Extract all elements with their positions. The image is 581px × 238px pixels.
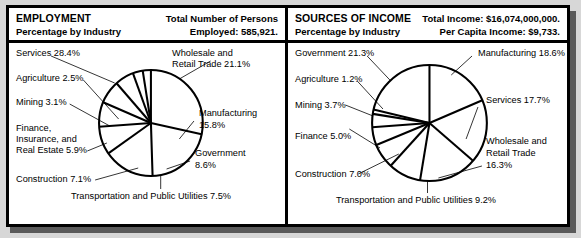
income-per-capita-value: Per Capita Income: $9,733. xyxy=(440,25,560,38)
employment-total-persons-label: Total Number of Persons xyxy=(166,12,278,25)
employment-slice-edge-3 xyxy=(108,123,151,153)
income-title: SOURCES OF INCOME xyxy=(295,12,411,25)
employment-label-agriculture: Agriculture 2.5% xyxy=(16,73,83,84)
income-label-finance: Finance 5.0% xyxy=(295,131,351,142)
income-label-wholesale-line3: 16.3% xyxy=(486,160,512,171)
income-leader-government xyxy=(367,56,390,80)
income-label-wholesale-line1: Wholesale and xyxy=(486,136,547,147)
income-label-mining: Mining 3.7% xyxy=(295,100,346,111)
income-subtitle: Percentage by Industry xyxy=(295,25,411,38)
employment-label-transportation: Transportation and Public Utilities 7.5% xyxy=(71,191,231,202)
employment-label-manufacturing-line2: 15.8% xyxy=(199,120,225,131)
employment-slice-edge-1 xyxy=(151,123,202,134)
employment-total-persons-value: Employed: 585,921. xyxy=(190,25,278,38)
income-header: SOURCES OF INCOME Percentage by Industry… xyxy=(288,8,567,43)
panel-employment: EMPLOYMENT Percentage by Industry Total … xyxy=(9,8,288,224)
employment-label-government-line1: Government xyxy=(195,148,246,159)
employment-label-government-line2: 8.6% xyxy=(195,160,216,171)
income-label-services: Services 17.7% xyxy=(486,95,550,106)
employment-leader-construction xyxy=(95,168,138,180)
employment-label-construction: Construction 7.1% xyxy=(16,174,91,185)
income-leader-mining xyxy=(345,105,373,116)
screenshot-canvas: EMPLOYMENT Percentage by Industry Total … xyxy=(0,0,581,238)
income-leader-manufacturing xyxy=(451,56,472,75)
employment-leader-mining xyxy=(70,104,110,126)
infographic-card: EMPLOYMENT Percentage by Industry Total … xyxy=(6,5,570,227)
employment-slice-edge-2 xyxy=(151,123,153,176)
employment-header-stats: Total Number of Persons Employed: 585,92… xyxy=(166,12,278,38)
employment-label-services: Services 28.4% xyxy=(16,48,80,59)
employment-subtitle: Percentage by Industry xyxy=(16,25,121,38)
employment-header: EMPLOYMENT Percentage by Industry Total … xyxy=(9,8,285,43)
income-label-transportation: Transportation and Public Utilities 9.2% xyxy=(336,195,496,206)
income-leader-finance xyxy=(349,129,380,148)
income-leader-wholesale xyxy=(438,166,482,178)
income-total-value: Total Income: $16,074,000,000. xyxy=(422,12,560,25)
panel-sources-of-income: SOURCES OF INCOME Percentage by Industry… xyxy=(288,8,567,224)
income-leader-services xyxy=(466,107,478,139)
employment-chart-area: Services 28.4% Agriculture 2.5% Mining 3… xyxy=(9,43,285,227)
income-label-construction: Construction 7.0% xyxy=(295,169,370,180)
employment-label-finance-line3: Real Estate 5.9% xyxy=(16,145,87,156)
income-slice-edge-1 xyxy=(429,100,482,123)
employment-label-wholesale-line1: Wholesale and xyxy=(172,48,233,59)
income-label-government: Government 21.3% xyxy=(295,48,374,59)
income-label-manufacturing: Manufacturing 18.6% xyxy=(478,48,565,59)
income-header-titles: SOURCES OF INCOME Percentage by Industry xyxy=(295,12,411,38)
panel-container: EMPLOYMENT Percentage by Industry Total … xyxy=(9,8,567,224)
employment-label-manufacturing-line1: Manufacturing xyxy=(199,108,257,119)
employment-label-finance-line2: Insurance, and xyxy=(16,134,77,145)
income-label-wholesale-line2: Retail Trade xyxy=(486,148,536,159)
employment-label-finance-line1: Finance, xyxy=(16,123,51,134)
income-header-stats: Total Income: $16,074,000,000. Per Capit… xyxy=(422,12,560,38)
income-slice-edge-2 xyxy=(429,123,473,161)
income-label-agriculture: Agriculture 1.2% xyxy=(295,74,362,85)
employment-label-wholesale-line2: Retail Trade 21.1% xyxy=(172,59,250,70)
employment-title: EMPLOYMENT xyxy=(16,12,121,25)
employment-label-mining: Mining 3.1% xyxy=(16,97,67,108)
income-chart-area: Government 21.3% Agriculture 1.2% Mining… xyxy=(288,43,567,227)
employment-header-titles: EMPLOYMENT Percentage by Industry xyxy=(16,12,121,38)
